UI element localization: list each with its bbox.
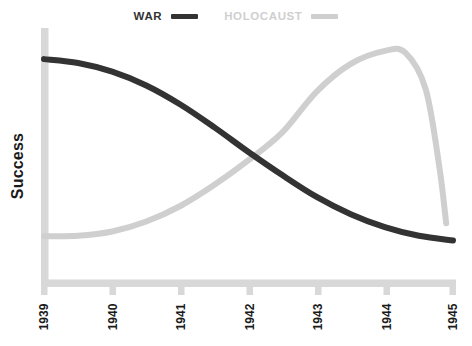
x-axis-line — [41, 280, 456, 288]
x-tick-1942 — [247, 287, 254, 295]
x-tick-1943 — [315, 287, 322, 295]
x-tick-1940 — [110, 287, 117, 295]
x-tick-1941 — [178, 287, 185, 295]
figure: WAR HOLOCAUST Success 19 — [0, 0, 472, 346]
x-tick-1944 — [384, 287, 391, 295]
x-tick-1939 — [41, 287, 48, 295]
series-line-war — [44, 59, 453, 240]
y-axis-line — [41, 28, 49, 287]
x-tick-1945 — [450, 287, 457, 295]
x-axis-ticks — [41, 287, 456, 295]
plot-area — [0, 0, 472, 346]
series-line-holocaust — [44, 49, 446, 237]
